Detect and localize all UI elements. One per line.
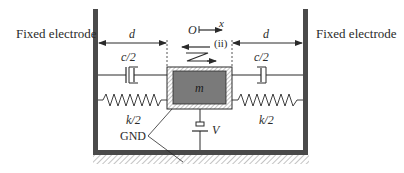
right-damper-icon bbox=[232, 67, 303, 83]
mass-label: m bbox=[195, 82, 204, 94]
voltage-label: V bbox=[212, 124, 219, 136]
right-spring-icon bbox=[232, 94, 303, 106]
right-damper-label: c/2 bbox=[254, 51, 269, 63]
right-spring-label: k/2 bbox=[259, 114, 274, 126]
base-frame bbox=[93, 150, 308, 155]
right-electrode-label: Fixed electrode bbox=[316, 27, 397, 40]
ground-label: GND bbox=[120, 130, 146, 142]
left-electrode-label: Fixed electrode bbox=[16, 27, 97, 40]
origin-label: O bbox=[188, 24, 197, 36]
left-damper-icon bbox=[98, 67, 167, 83]
ground-hatch bbox=[93, 155, 309, 164]
left-spring-label: k/2 bbox=[126, 114, 141, 126]
left-gap-label: d bbox=[129, 28, 135, 40]
left-damper-label: c/2 bbox=[121, 51, 136, 63]
axis-label: x bbox=[219, 18, 224, 29]
gnd-leader-to-mass bbox=[148, 109, 172, 136]
mode-label: (ii) bbox=[214, 38, 227, 49]
voltage-source-icon bbox=[192, 109, 208, 150]
right-fixed-electrode bbox=[303, 9, 308, 155]
right-gap-label: d bbox=[263, 28, 269, 40]
oscillation-arrow-icon bbox=[182, 47, 216, 61]
left-spring-icon bbox=[98, 94, 167, 106]
